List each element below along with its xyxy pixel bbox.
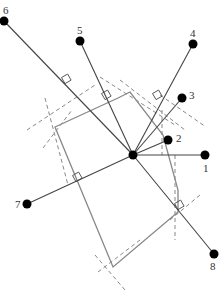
point-7 (23, 200, 32, 209)
point-label-1: 1 (203, 162, 209, 174)
point-label-3: 3 (189, 89, 195, 101)
point-label-5: 5 (77, 24, 83, 36)
point-8 (210, 250, 219, 259)
point-5 (76, 37, 85, 46)
spoke-to-point-5 (80, 41, 133, 155)
dashed-line (43, 110, 72, 148)
geometric-diagram: 12345678 (0, 0, 221, 304)
point-2 (164, 136, 173, 145)
points (0, 17, 219, 259)
point-4 (189, 40, 198, 49)
point-label-4: 4 (190, 27, 196, 39)
dashed-line (120, 80, 185, 130)
spoke-to-point-6 (4, 21, 133, 155)
point-3 (178, 94, 187, 103)
point-label-2: 2 (176, 132, 182, 144)
point-1 (201, 151, 210, 160)
point-label-7: 7 (15, 198, 21, 210)
spoke-to-point-2 (133, 140, 168, 155)
diagram-canvas: 12345678 (0, 0, 221, 304)
point-label-6: 6 (3, 4, 9, 16)
point-label-8: 8 (210, 260, 216, 272)
spokes-from-center (4, 21, 214, 254)
center-point (129, 151, 138, 160)
point-labels: 12345678 (3, 4, 216, 272)
dashed-perpendicular-bisectors (27, 77, 206, 290)
right-angle-mark (153, 90, 163, 100)
dashed-line (27, 85, 95, 130)
